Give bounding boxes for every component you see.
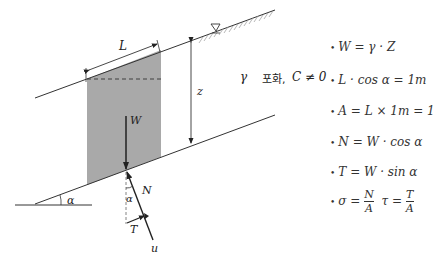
formula-normal: •N = W · cos α [330, 135, 422, 149]
formula-weight: •W = γ · Z [330, 40, 395, 54]
label-cohesion: C ≠ 0 [292, 71, 327, 83]
formula-stresses: •σ = NA τ = TA [330, 188, 414, 215]
label-gamma: γ [240, 71, 247, 83]
soil-block [87, 50, 161, 185]
label-alpha-force: α [126, 194, 133, 204]
label-z: z [197, 86, 203, 97]
label-W: W [130, 115, 141, 126]
label-N: N [142, 185, 152, 196]
formula-tangential: •T = W · sin α [330, 165, 417, 179]
label-T: T [130, 224, 137, 235]
T-force-arrow [127, 216, 144, 223]
ground-hatch [199, 11, 273, 43]
label-saturated: 포화, [262, 70, 286, 86]
formula-length: •L · cos α = 1m [330, 73, 426, 87]
alpha-force-arc [126, 186, 133, 188]
label-alpha-base: α [67, 195, 74, 206]
alpha-angle-arc [60, 195, 61, 205]
label-u: u [151, 243, 158, 254]
label-L: L [119, 40, 127, 52]
formula-area: •A = L × 1m = 1 [330, 104, 434, 118]
